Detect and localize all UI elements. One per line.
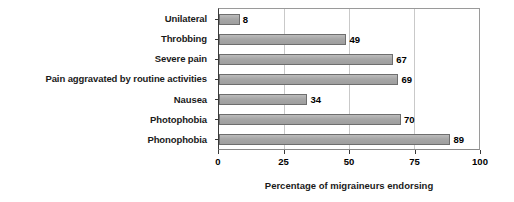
bar-row: 89 [219,129,479,149]
bar-value-label: 49 [349,34,360,45]
x-tick-label: 75 [409,156,420,167]
bar-throbbing: 49 [219,34,346,45]
bar-value-label: 8 [243,14,248,25]
plot-area: 8 49 67 69 [218,8,480,150]
bar-row: 34 [219,89,479,109]
bar-value-label: 70 [404,114,415,125]
bar-photophobia: 70 [219,114,401,125]
bar-row: 8 [219,9,479,29]
bar-chart: Unilateral Throbbing Severe pain Pain ag… [0,0,514,202]
category-label: Pain aggravated by routine activities [0,69,213,89]
category-label: Severe pain [0,49,213,69]
bar-row: 69 [219,69,479,89]
category-label: Throbbing [0,28,213,48]
x-tick-label: 25 [278,156,289,167]
bar-row: 49 [219,29,479,49]
x-tick [218,150,219,154]
bar-value-label: 69 [401,74,412,85]
x-tick [415,150,416,154]
category-label: Unilateral [0,8,213,28]
category-label: Photophobia [0,109,213,129]
x-tick [349,150,350,154]
bar-row: 70 [219,109,479,129]
bar-value-label: 34 [310,94,321,105]
x-tick-label: 100 [472,156,488,167]
x-axis-title: Percentage of migraineurs endorsing [218,180,480,191]
category-axis-labels: Unilateral Throbbing Severe pain Pain ag… [0,8,213,150]
bar-severe-pain: 67 [219,54,393,65]
category-label: Phonophobia [0,130,213,150]
bar-unilateral: 8 [219,14,240,25]
x-tick [284,150,285,154]
x-tick-label: 0 [215,156,220,167]
bar-value-label: 67 [396,54,407,65]
bar-pain-aggravated: 69 [219,74,398,85]
bar-nausea: 34 [219,94,307,105]
x-tick-label: 50 [344,156,355,167]
bar-row: 67 [219,49,479,69]
category-label: Nausea [0,89,213,109]
x-tick [480,150,481,154]
bar-phonophobia: 89 [219,134,450,145]
bar-rows: 8 49 67 69 [219,9,479,149]
x-axis: 0 25 50 75 100 [218,150,480,174]
bar-value-label: 89 [453,134,464,145]
